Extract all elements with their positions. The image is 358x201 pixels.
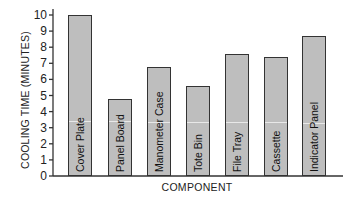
bar-cassette: Cassette — [264, 57, 288, 176]
y-tick-label: 7 — [27, 57, 47, 69]
bar-chart: COOLING TIME (MINUTES) COMPONENT 0123456… — [0, 0, 358, 201]
y-tick-label: 6 — [27, 73, 47, 85]
bar-label: Cover Plate — [74, 117, 86, 172]
scan-streak — [226, 122, 248, 123]
y-tick-label: 5 — [27, 90, 47, 102]
y-tick-label: 3 — [27, 122, 47, 134]
bar-cover-plate: Cover Plate — [68, 15, 92, 176]
bar-label: Panel Board — [114, 114, 126, 172]
bar-panel-board: Panel Board — [108, 99, 132, 176]
bar-label: File Tray — [231, 132, 243, 172]
bar-label: Cassette — [270, 131, 282, 172]
y-tick-label: 9 — [27, 25, 47, 37]
scan-streak — [265, 122, 287, 123]
bar-label: Indicator Panel — [308, 102, 320, 172]
y-tick-label: 0 — [27, 170, 47, 182]
bar-indicator-panel: Indicator Panel — [302, 36, 326, 176]
y-tick-label: 10 — [27, 9, 47, 21]
bar-label: Manometer Case — [153, 91, 165, 172]
y-tick-label: 2 — [27, 138, 47, 150]
bar-tote-bin: Tote Bin — [186, 86, 210, 176]
x-axis-label: COMPONENT — [162, 181, 233, 193]
y-tick-label: 1 — [27, 154, 47, 166]
bar-label: Tote Bin — [192, 134, 204, 172]
bar-file-tray: File Tray — [225, 54, 249, 176]
y-tick-label: 4 — [27, 106, 47, 118]
scan-streak — [187, 122, 209, 123]
y-tick-label: 8 — [27, 41, 47, 53]
bar-manometer-case: Manometer Case — [147, 67, 171, 176]
